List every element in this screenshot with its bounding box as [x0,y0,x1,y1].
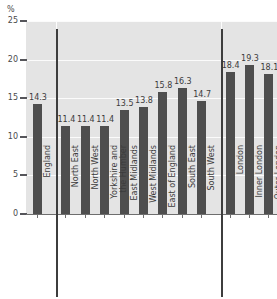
bar [61,126,70,214]
x-axis-tick [124,214,125,218]
x-axis-tick [268,214,269,218]
bar [158,92,167,214]
x-axis-category-label: North East [72,145,81,221]
bar-value-label: 19.3 [239,55,261,63]
x-axis-tick [37,214,38,218]
x-axis-tick [162,214,163,218]
gridline [26,21,277,22]
x-axis-tick [230,214,231,218]
y-axis-tick [20,20,27,22]
x-axis-tick [249,214,250,218]
x-axis-category-label: England [44,145,53,221]
x-axis-category-label: Outer London [275,145,277,221]
clipped-title-sliver: , ,, [38,0,168,3]
bar [33,104,42,214]
x-axis-category-label: Yorkshire and the Humber [111,145,128,221]
bar [245,65,254,214]
y-axis-label: 20 [2,56,18,64]
bar [264,74,273,214]
x-axis-tick [104,214,105,218]
bar-value-label: 18.1 [258,64,277,72]
x-axis-tick [65,214,66,218]
bar [139,107,148,214]
x-axis-category-label: West Midlands [150,145,159,221]
x-axis-category-label: London [237,145,246,221]
x-axis-tick [201,214,202,218]
x-axis-category-label: Inner London [256,145,265,221]
y-axis-label: 15 [2,94,18,102]
y-axis-label: 25 [2,17,18,25]
bar-value-label: 18.4 [220,62,242,70]
x-axis-category-label: East Midlands [131,145,140,221]
x-axis-category-label: South West [208,145,217,221]
x-axis-tick [143,214,144,218]
bar-value-label: 14.7 [191,91,213,99]
x-axis-category-label: South East [189,145,198,221]
bar-chart: , ,, % 0510152025 EnglandNorth EastNorth… [0,0,277,299]
y-axis-label: 10 [2,133,18,141]
bar [100,126,109,214]
bar [226,72,235,214]
bar [81,126,90,214]
x-axis-tick [182,214,183,218]
y-axis-tick [20,97,27,99]
y-axis-tick [20,59,27,61]
bar [197,101,206,214]
bar [178,88,187,214]
y-axis-tick [20,174,27,176]
bar-value-label: 11.4 [94,116,116,124]
bar-value-label: 13.8 [133,97,155,105]
x-axis-category-label: North West [92,145,101,221]
y-axis-label: 0 [2,210,18,218]
y-axis-label: 5 [2,171,18,179]
group-separator-axis [56,29,58,297]
x-axis-category-label: East of England [169,145,178,221]
y-axis-tick [20,136,27,138]
y-axis-unit-label: % [7,6,15,14]
bar-value-label: 14.3 [27,94,49,102]
x-axis-tick [85,214,86,218]
bar-value-label: 16.3 [172,78,194,86]
